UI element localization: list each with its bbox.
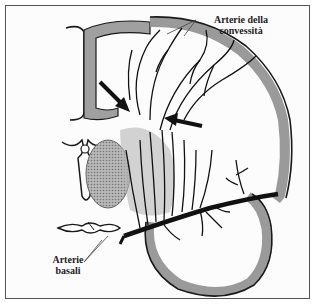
label-line: Arterie bbox=[48, 254, 88, 265]
optic-chiasm bbox=[58, 222, 120, 233]
label-basal-arteries: Arterie basali bbox=[48, 254, 88, 276]
insula-shading bbox=[120, 128, 175, 216]
label-line: Arterie della bbox=[196, 14, 286, 25]
left-arrow bbox=[100, 82, 130, 112]
right-arrow bbox=[164, 113, 202, 126]
label-line: basali bbox=[48, 265, 88, 276]
label-convexity-arteries: Arterie della convessità bbox=[196, 14, 286, 36]
label-line: convessità bbox=[196, 25, 286, 36]
